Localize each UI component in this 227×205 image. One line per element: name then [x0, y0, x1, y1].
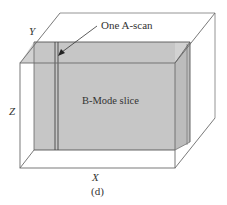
- x-axis-label: X: [92, 172, 99, 183]
- a-scan-annotation: One A-scan: [101, 20, 153, 31]
- y-axis-label: Y: [29, 26, 35, 37]
- z-axis-label: Z: [9, 106, 15, 117]
- figure-caption: (d): [91, 186, 104, 197]
- volume-diagram: Y One A-scan B-Mode slice Z X (d): [0, 0, 227, 205]
- b-mode-slice-label: B-Mode slice: [82, 96, 139, 107]
